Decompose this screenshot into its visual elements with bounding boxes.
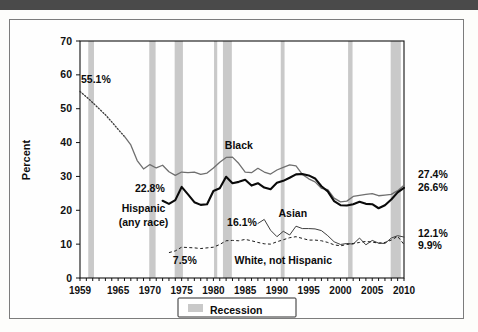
annotation-22-8: 22.8% [135,182,165,194]
recession-bands-group [88,41,401,278]
data-series-group [80,91,404,252]
x-tick-label-1990: 1990 [266,285,289,296]
y-tick-label-10: 10 [60,238,72,250]
annotation-55-1: 55.1% [81,73,111,85]
x-tick-label-1959: 1959 [69,285,92,296]
annotation-asian: Asian [279,207,308,219]
series-line-black-dotted [80,91,124,136]
recession-band-3 [214,41,217,278]
y-tick-label-30: 30 [60,170,72,182]
y-tick-label-0: 0 [66,272,72,284]
x-tick-label-1975: 1975 [171,285,194,296]
y-axis-title: Percent [20,139,32,180]
x-tick-label-1970: 1970 [139,285,162,296]
legend-swatch-recession [188,304,203,312]
x-tick-label-2010: 2010 [393,285,416,296]
x-tick-label-1995: 1995 [298,285,321,296]
annotation-9-9: 9.9% [418,239,443,251]
x-axis: 1959196519701975198019851990199520002005… [69,278,416,296]
annotation-white-not-hispanic: White, not Hispanic [235,254,333,266]
x-tick-label-1985: 1985 [234,285,257,296]
poverty-rate-line-chart: 010203040506070 195919651970197519801985… [10,20,463,318]
recession-band-7 [391,41,401,278]
page-root: 010203040506070 195919651970197519801985… [0,0,478,332]
recession-band-5 [281,41,285,278]
top-dark-bar [0,0,478,10]
y-tick-label-50: 50 [60,102,72,114]
series-line-black [124,136,404,201]
recession-band-1 [149,41,155,278]
y-tick-label-20: 20 [60,204,72,216]
recession-band-6 [348,41,352,278]
annotation-black: Black [225,139,253,151]
annotation-27-4: 27.4% [418,168,448,180]
y-tick-label-60: 60 [60,68,72,80]
x-tick-label-1965: 1965 [107,285,130,296]
x-tick-label-2000: 2000 [329,285,352,296]
legend-label-recession: Recession [210,304,263,316]
x-tick-label-1980: 1980 [202,285,225,296]
annotation-26-6: 26.6% [418,181,448,193]
x-tick-label-2005: 2005 [361,285,384,296]
recession-band-2 [175,41,183,278]
y-axis: 010203040506070 [60,35,80,284]
chart-legend: Recession [178,298,296,317]
series-line-white-not-hispanic [169,236,404,252]
annotation-16-1: 16.1% [227,216,257,228]
annotation-7-5: 7.5% [173,254,198,266]
figure-frame: 010203040506070 195919651970197519801985… [9,19,464,319]
annotation-hispanic: Hispanic [122,202,166,214]
annotation-12-1: 12.1% [418,227,448,239]
y-tick-label-40: 40 [60,136,72,148]
annotation-any-race: (any race) [119,216,169,228]
y-tick-label-70: 70 [60,35,72,47]
